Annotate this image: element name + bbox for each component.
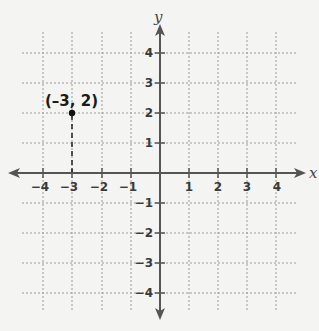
y-tick-label: 4 [145,46,153,60]
coordinate-plane: x −4 −3 −2 −1 1 2 3 4 y 4 3 [0,0,319,331]
x-tick-label: 3 [243,180,251,194]
x-tick-label: −4 [31,180,49,194]
y-tick-label: −2 [135,226,153,240]
y-tick-label: −3 [135,256,153,270]
y-tick-label: 1 [145,136,153,150]
y-tick-label: −4 [135,286,153,300]
y-tick-label: 2 [145,106,153,120]
y-axis: y 4 3 2 1 −1 −2 −3 −4 [135,8,165,320]
x-tick-label: 1 [185,180,193,194]
y-tick-label: −1 [135,196,153,210]
plotted-point [69,110,75,116]
x-tick-label: 4 [273,180,281,194]
x-tick-label: −1 [119,180,137,194]
y-tick-label: 3 [145,76,153,90]
x-tick-label: −2 [90,180,108,194]
y-axis-label: y [153,8,163,26]
x-axis: x −4 −3 −2 −1 1 2 3 4 [8,164,318,194]
x-tick-label: −3 [60,180,78,194]
x-axis-label: x [309,164,318,182]
x-tick-label: 2 [214,180,222,194]
point-label: (–3, 2) [45,92,98,110]
